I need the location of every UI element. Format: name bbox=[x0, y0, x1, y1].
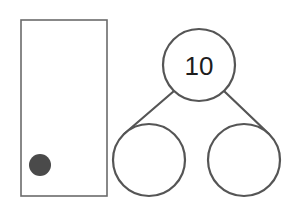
counter-frame bbox=[21, 20, 107, 196]
part-circle-right[interactable] bbox=[208, 124, 280, 196]
worksheet-svg: 10 bbox=[0, 0, 300, 211]
counter-dot-1[interactable] bbox=[29, 154, 51, 176]
worksheet-canvas: 10 bbox=[0, 0, 300, 211]
number-bond-diagram: 10 bbox=[113, 29, 280, 196]
whole-circle-value: 10 bbox=[185, 51, 214, 81]
part-circle-left[interactable] bbox=[113, 124, 185, 196]
